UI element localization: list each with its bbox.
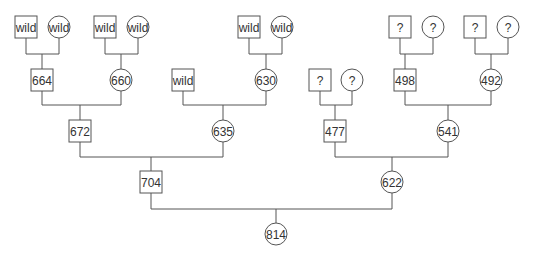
node-label: wild <box>271 21 293 35</box>
female-node: 622 <box>381 171 403 193</box>
male-node: 672 <box>69 120 91 142</box>
female-node: 660 <box>110 69 132 91</box>
male-node: 498 <box>394 69 416 91</box>
female-node: 814 <box>265 223 287 245</box>
node-label: 672 <box>70 125 90 139</box>
node-label: wild <box>94 21 116 35</box>
pedigree-diagram: wildwildwildwildwildwild????664660wild63… <box>0 0 534 256</box>
node-label: ? <box>397 21 404 35</box>
node-label: 498 <box>395 74 415 88</box>
male-node: wild <box>172 69 194 91</box>
female-node: wild <box>271 16 293 38</box>
male-node: ? <box>389 16 411 38</box>
node-label: ? <box>430 21 437 35</box>
female-node: 635 <box>212 120 234 142</box>
node-label: 635 <box>213 125 233 139</box>
female-node: ? <box>422 16 444 38</box>
male-node: ? <box>309 69 331 91</box>
pedigree-nodes: wildwildwildwildwildwild????664660wild63… <box>15 16 519 245</box>
node-label: 664 <box>32 74 52 88</box>
node-label: ? <box>472 21 479 35</box>
node-label: 630 <box>256 74 276 88</box>
node-label: wild <box>127 21 149 35</box>
male-node: wild <box>94 16 116 38</box>
node-label: 477 <box>325 125 345 139</box>
male-node: wild <box>15 16 37 38</box>
female-node: ? <box>341 69 363 91</box>
node-label: wild <box>238 21 260 35</box>
node-label: 814 <box>266 228 286 242</box>
node-label: 492 <box>481 74 501 88</box>
node-label: ? <box>505 21 512 35</box>
male-node: 704 <box>140 171 162 193</box>
female-node: 541 <box>437 120 459 142</box>
connector-lines <box>26 38 508 223</box>
node-label: 622 <box>382 176 402 190</box>
female-node: 492 <box>480 69 502 91</box>
node-label: 660 <box>111 74 131 88</box>
node-label: wild <box>15 21 37 35</box>
male-node: 477 <box>324 120 346 142</box>
male-node: wild <box>238 16 260 38</box>
node-label: wild <box>48 21 70 35</box>
female-node: wild <box>127 16 149 38</box>
node-label: 541 <box>438 125 458 139</box>
node-label: ? <box>317 74 324 88</box>
female-node: 630 <box>255 69 277 91</box>
female-node: ? <box>497 16 519 38</box>
node-label: 704 <box>141 176 161 190</box>
node-label: ? <box>349 74 356 88</box>
male-node: ? <box>464 16 486 38</box>
node-label: wild <box>172 74 194 88</box>
male-node: 664 <box>31 69 53 91</box>
female-node: wild <box>48 16 70 38</box>
